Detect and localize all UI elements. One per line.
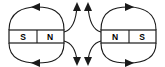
- right-magnet: N S: [101, 30, 156, 43]
- left-loop-bottom-arrowhead-icon: [31, 59, 40, 67]
- right-magnet-south-pole-label: S: [139, 32, 145, 42]
- right-loop-top-arrowhead-icon: [125, 3, 134, 11]
- right-loop-bottom-arrowhead-icon: [125, 59, 134, 67]
- left-outer-lower-arrowhead-icon: [73, 57, 81, 66]
- right-magnet-upper-loop-line: [101, 7, 156, 30]
- magnet-field-diagram: S N N S: [0, 0, 165, 67]
- right-outer-lower-arrowhead-icon: [84, 57, 92, 66]
- right-outer-upper-arrowhead-icon: [84, 2, 92, 11]
- right-magnet-lower-loop-line: [101, 43, 156, 63]
- left-magnet-lower-loop-line: [9, 43, 64, 63]
- left-magnet-upper-loop-line: [9, 7, 64, 30]
- left-outer-upper-arrowhead-icon: [73, 2, 81, 11]
- right-magnet-north-pole-label: N: [112, 32, 118, 42]
- magnetic-field-svg: S N N S: [0, 0, 165, 67]
- left-magnet: S N: [9, 30, 64, 43]
- left-magnet-south-pole-label: S: [20, 32, 26, 42]
- left-loop-top-arrowhead-icon: [31, 3, 40, 11]
- left-magnet-north-pole-label: N: [47, 32, 53, 42]
